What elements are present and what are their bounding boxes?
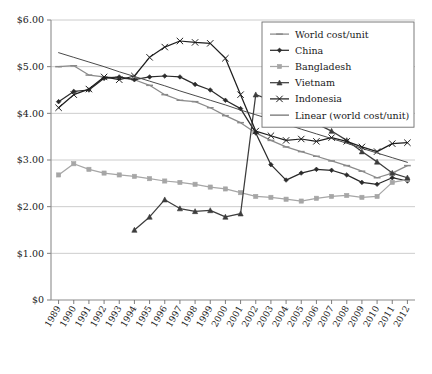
legend-label: Linear (world cost/unit) [295,110,409,121]
x-axis-labels: 1989199019911992199319941995199619971998… [43,300,412,329]
legend-label: China [295,45,324,56]
legend: World cost/unitChinaBangladeshVietnamInd… [262,22,414,127]
legend-label: Bangladesh [295,61,351,72]
legend-label: World cost/unit [295,29,369,40]
y-axis-tick-label: $0 [32,294,44,305]
y-axis-tick-label: $1.00 [17,248,44,259]
series-bangladesh [56,162,409,204]
x-axis-tick-label: 2012 [392,304,412,329]
legend-label: Vietnam [294,77,335,88]
y-axis-tick-label: $4.00 [17,108,44,119]
line-chart: $0$1.00$2.00$3.00$4.00$5.00$6.0019891990… [0,0,432,374]
y-axis-tick-label: $6.00 [17,14,44,25]
y-axis-tick-label: $2.00 [17,201,44,212]
y-axis-tick-label: $3.00 [17,154,44,165]
y-axis-tick-label: $5.00 [17,61,44,72]
legend-label: Indonesia [295,93,342,104]
chart-container: $0$1.00$2.00$3.00$4.00$5.00$6.0019891990… [0,0,432,374]
